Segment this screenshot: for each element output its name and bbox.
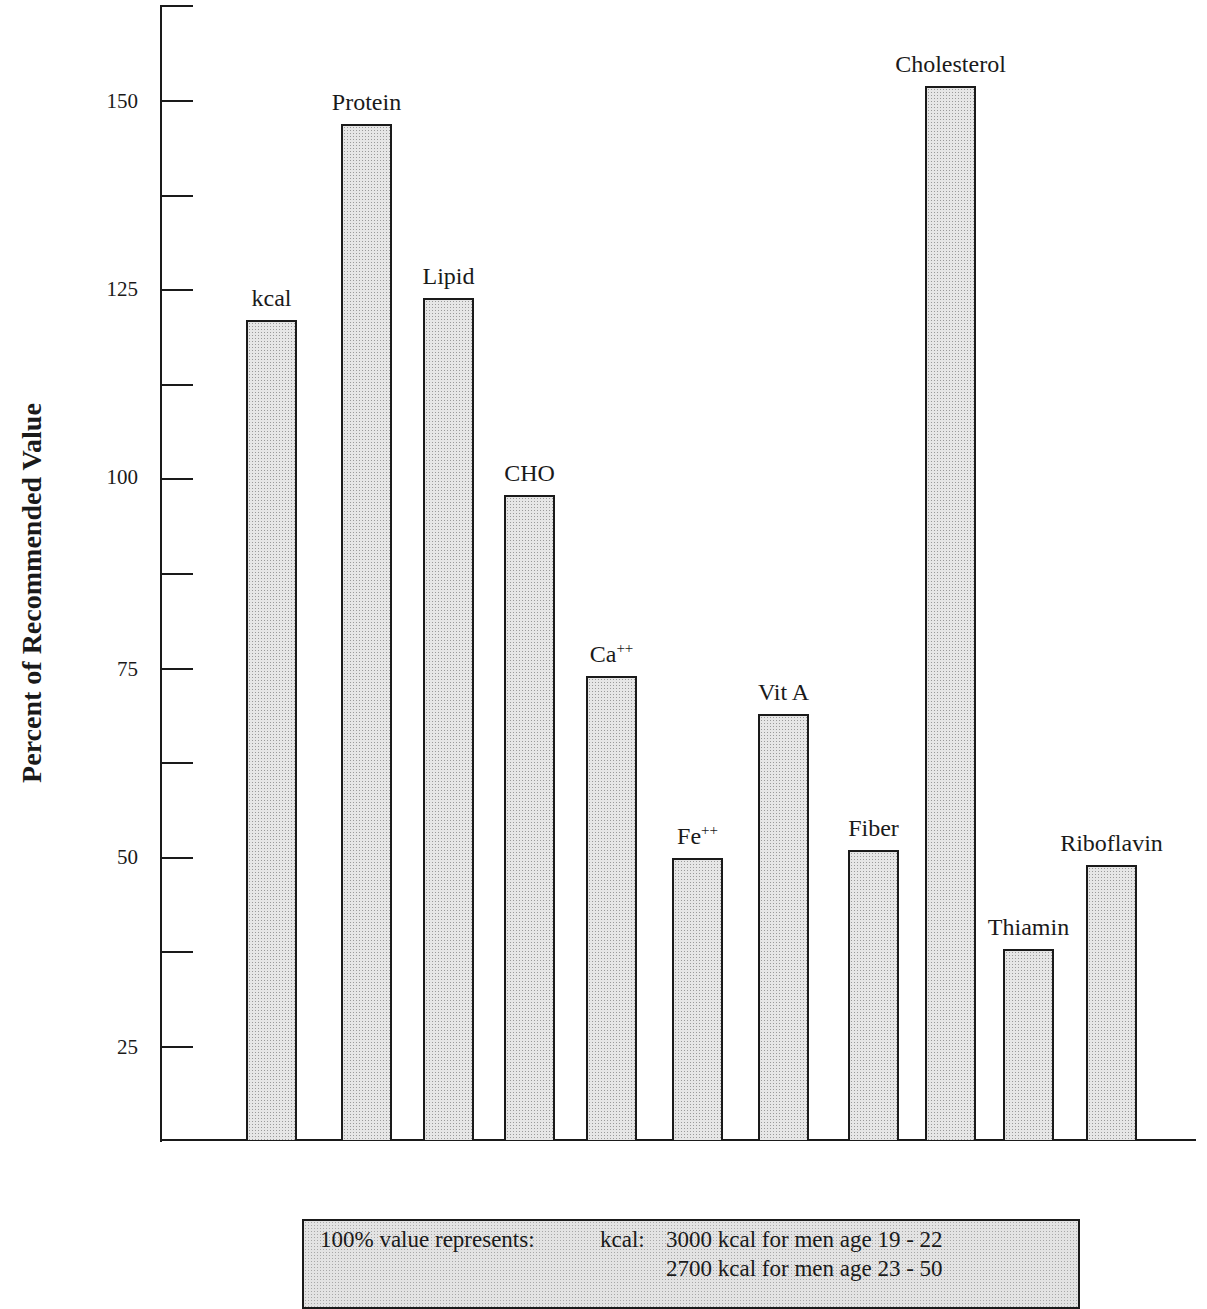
y-tick — [161, 951, 193, 953]
note-key: kcal: — [600, 1225, 645, 1254]
bar-label: CHO — [504, 459, 555, 487]
bar — [1086, 865, 1137, 1140]
y-tick — [161, 668, 193, 670]
bar-label: kcal — [252, 284, 292, 312]
bar-label: Fiber — [848, 814, 899, 842]
bar — [586, 676, 637, 1140]
bar — [848, 850, 899, 1140]
y-tick — [161, 857, 193, 859]
y-tick — [161, 195, 193, 197]
bar-label: Vit A — [758, 678, 809, 706]
bar-label: Cholesterol — [895, 50, 1006, 78]
y-tick-label: 125 — [78, 277, 138, 301]
y-tick-label: 25 — [78, 1035, 138, 1059]
note-box: 100% value represents: kcal: 3000 kcal f… — [302, 1219, 1080, 1309]
y-tick — [161, 1046, 193, 1048]
note-line-2: 2700 kcal for men age 23 - 50 — [666, 1254, 943, 1283]
bar-label: Thiamin — [988, 913, 1069, 941]
y-axis-title: Percent of Recommended Value — [16, 403, 48, 783]
bar — [758, 714, 809, 1140]
y-tick — [161, 100, 193, 102]
y-tick — [161, 762, 193, 764]
y-tick-label: 50 — [78, 845, 138, 869]
bar — [341, 124, 392, 1140]
bar-label: Lipid — [423, 262, 475, 290]
y-tick — [161, 384, 193, 386]
bar-label: Ca++ — [590, 640, 634, 668]
y-tick-label: 150 — [78, 89, 138, 113]
bar — [1003, 949, 1054, 1140]
y-tick — [161, 478, 193, 480]
bar — [925, 86, 976, 1140]
bar — [423, 298, 474, 1140]
bar — [504, 495, 555, 1140]
y-tick — [161, 5, 193, 7]
bar — [246, 320, 297, 1140]
y-tick — [161, 289, 193, 291]
y-tick-label: 100 — [78, 465, 138, 489]
note-intro: 100% value represents: — [320, 1225, 535, 1254]
bar — [672, 858, 723, 1140]
bar-label: Riboflavin — [1060, 829, 1163, 857]
y-tick — [161, 573, 193, 575]
note-line-1: 3000 kcal for men age 19 - 22 — [666, 1225, 943, 1254]
bar-label: Fe++ — [677, 822, 718, 850]
bar-label: Protein — [332, 88, 401, 116]
y-tick-label: 75 — [78, 657, 138, 681]
